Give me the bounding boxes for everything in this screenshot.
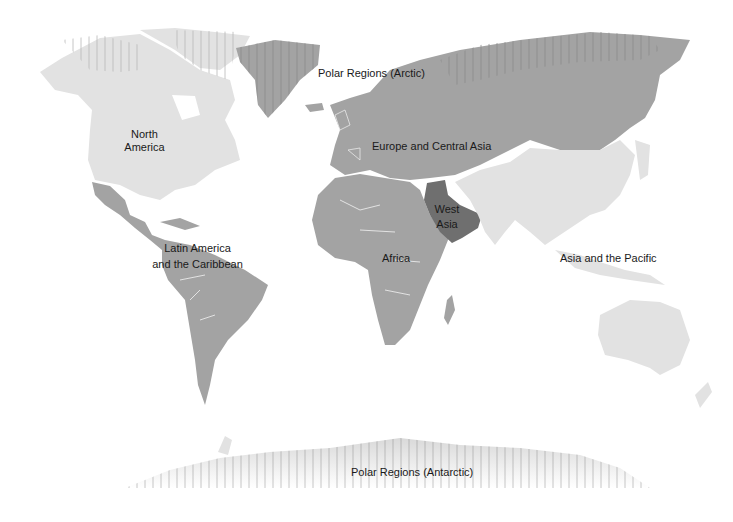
label-europe-central-asia: Europe and Central Asia (372, 140, 491, 153)
region-antarctic[interactable] (125, 436, 650, 488)
label-latin-america: Latin America and the Caribbean (140, 240, 255, 272)
label-antarctic: Polar Regions (Antarctic) (351, 466, 473, 479)
region-north-america[interactable] (40, 28, 250, 200)
region-latin-america[interactable] (92, 182, 268, 410)
label-west-asia-line2: Asia (432, 217, 462, 232)
label-north-america: North America (122, 128, 167, 154)
label-west-asia-line1: West (432, 202, 462, 217)
label-latin-america-line1: Latin America (140, 240, 255, 256)
region-arctic-greenland[interactable] (236, 40, 324, 118)
label-arctic: Polar Regions (Arctic) (318, 67, 425, 80)
label-africa: Africa (382, 252, 410, 265)
label-west-asia: West Asia (432, 202, 462, 232)
label-latin-america-line2: and the Caribbean (140, 256, 255, 272)
label-north-america-line2: America (122, 141, 167, 154)
label-asia-pacific: Asia and the Pacific (560, 252, 657, 265)
label-north-america-line1: North (122, 128, 167, 141)
region-europe-central-asia[interactable] (330, 32, 690, 180)
region-asia-pacific[interactable] (455, 140, 712, 408)
